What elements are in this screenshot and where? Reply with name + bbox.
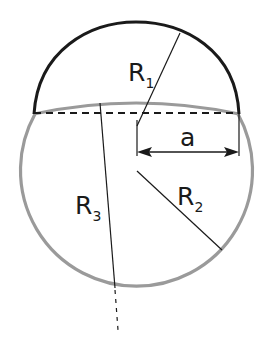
label-r3: R3 [75, 191, 101, 224]
label-a: a [180, 123, 195, 152]
label-r1: R1 [128, 58, 154, 91]
geometry-diagram: R1 a R2 R3 [0, 0, 264, 349]
r3-radius-extension-dashed [115, 290, 118, 330]
r3-radius-line [100, 103, 115, 288]
label-r2: R2 [177, 182, 203, 215]
